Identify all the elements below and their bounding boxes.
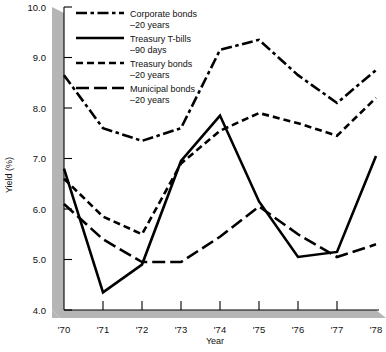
chart-plot-area: 4.05.06.07.08.09.010.0 '70'71'72'73'74'7… (0, 0, 386, 352)
chart-legend: Corporate bonds–20 yearsTreasury T-bills… (76, 9, 198, 105)
y-tick-label: 4.0 (33, 305, 46, 316)
x-axis-ticks (103, 301, 337, 310)
axis-lines (64, 7, 379, 310)
legend-label: Corporate bonds (130, 9, 198, 19)
series-line-municipal-bonds (64, 204, 376, 262)
x-tick-label: '75 (253, 324, 265, 335)
x-tick-label: '71 (97, 324, 109, 335)
y-axis-tick-labels: 4.05.06.07.08.09.010.0 (28, 2, 47, 316)
legend-sublabel: –20 years (130, 95, 170, 105)
yield-chart: 4.05.06.07.08.09.010.0 '70'71'72'73'74'7… (0, 0, 386, 352)
x-tick-label: '76 (292, 324, 304, 335)
series-line-corporate-bonds (64, 40, 376, 141)
legend-item-treasury-t-bills: Treasury T-bills–90 days (76, 34, 192, 55)
legend-item-municipal-bonds: Municipal bonds–20 years (76, 84, 196, 105)
legend-sublabel: –20 years (130, 20, 170, 30)
y-tick-label: 6.0 (33, 204, 46, 215)
data-series-layer (64, 40, 376, 293)
legend-sublabel: –20 years (130, 70, 170, 80)
y-tick-label: 10.0 (28, 2, 47, 13)
series-line-treasury-t-bills (64, 116, 376, 293)
x-axis-title: Year (206, 336, 224, 346)
legend-item-treasury-bonds: Treasury bonds–20 years (76, 59, 193, 80)
x-tick-label: '78 (370, 324, 382, 335)
legend-label: Treasury bonds (130, 59, 193, 69)
legend-label: Treasury T-bills (130, 34, 192, 44)
y-tick-label: 5.0 (33, 254, 46, 265)
y-axis-title: Yield (%) (4, 157, 14, 193)
legend-label: Municipal bonds (130, 84, 196, 94)
y-tick-label: 7.0 (33, 153, 46, 164)
x-axis-tick-labels: '70'71'72'73'74'75'76'77'78 (58, 324, 382, 335)
legend-sublabel: –90 days (130, 45, 167, 55)
legend-item-corporate-bonds: Corporate bonds–20 years (76, 9, 198, 30)
x-tick-label: '73 (175, 324, 187, 335)
y-tick-label: 9.0 (33, 52, 46, 63)
y-axis-ticks (64, 7, 72, 310)
x-tick-label: '70 (58, 324, 70, 335)
x-tick-label: '74 (214, 324, 226, 335)
x-tick-label: '72 (136, 324, 148, 335)
y-tick-label: 8.0 (33, 103, 46, 114)
x-tick-label: '77 (331, 324, 343, 335)
